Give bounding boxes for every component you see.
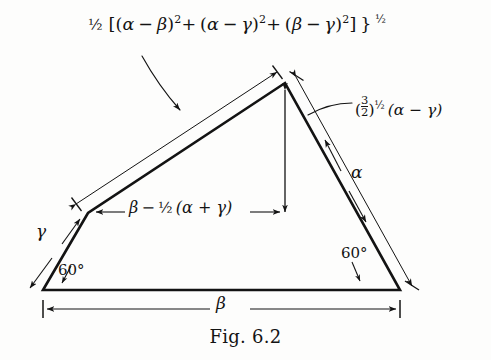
formula-term2-open: ( — [200, 14, 207, 34]
leader-top-formula — [142, 56, 180, 110]
right-edge-length-label: (32)½ (α − γ) — [355, 95, 442, 119]
formula-term1-open: ( — [116, 14, 123, 34]
formula-term2-gamma: γ — [241, 14, 252, 34]
dimension-upper-left-edge — [72, 66, 283, 212]
geometry-diagram — [0, 0, 491, 360]
right-label-expression: (α − γ) — [388, 101, 443, 119]
formula-plus-1: + — [181, 14, 196, 34]
formula-term1-minus: − — [138, 14, 153, 34]
middle-span-half: ½ — [158, 199, 173, 217]
figure-caption: Fig. 6.2 — [0, 328, 491, 346]
gamma-edge-label: γ — [36, 223, 46, 240]
angle-leader-right — [352, 262, 360, 281]
formula-open-bracket: [ — [109, 14, 116, 34]
formula-term1-beta: β — [157, 14, 167, 34]
right-label-exponent: ½ — [374, 99, 384, 111]
angle-label-left: 60° — [58, 263, 85, 278]
formula-term2-alpha: α — [207, 14, 219, 34]
angle-label-right: 60° — [341, 246, 368, 261]
formula-close-bracket: ] — [349, 14, 356, 34]
leader-right-label — [308, 103, 352, 115]
formula-outer-exponent: ½ — [375, 13, 386, 26]
alpha-edge-label: α — [351, 164, 362, 181]
formula-term3-beta: β — [292, 14, 302, 34]
formula-term2-minus: − — [223, 14, 238, 34]
formula-term3-open: ( — [285, 14, 292, 34]
middle-span-group: (α + γ) — [176, 198, 232, 217]
formula-term1-alpha: α — [123, 14, 135, 34]
formula-term3-minus: − — [306, 14, 321, 34]
formula-term3-gamma: γ — [325, 14, 336, 34]
middle-span-beta: β — [129, 198, 138, 217]
formula-plus-2: + — [266, 14, 281, 34]
top-formula-label: ½ [(α − β)2+ (α − γ)2+ (β − γ)2] } ½ — [88, 16, 386, 34]
formula-close-brace: } — [360, 14, 371, 34]
beta-base-label: β — [216, 295, 226, 312]
middle-span-minus: − — [141, 198, 154, 217]
figure-container: ½ [(α − β)2+ (α − γ)2+ (β − γ)2] } ½ (32… — [0, 0, 491, 360]
formula-half-coefficient: ½ — [88, 16, 103, 34]
middle-span-label: β − ½ (α + γ) — [129, 200, 232, 216]
